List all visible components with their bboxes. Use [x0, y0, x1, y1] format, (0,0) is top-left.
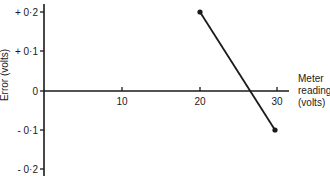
x-tick-label: 30 [271, 96, 283, 107]
x-axis-label-line: reading [298, 85, 330, 96]
data-point [272, 127, 277, 132]
y-tick-label: + 0·1 [15, 46, 39, 57]
x-axis-label-line: Meter [298, 73, 324, 84]
x-tick-labels: 10 20 30 [116, 96, 283, 107]
x-tick-label: 20 [194, 96, 206, 107]
x-tick-label: 10 [116, 96, 128, 107]
y-tick-labels: + 0·2 + 0·1 0 - 0·1 - 0·2 [15, 7, 39, 175]
data-line [200, 12, 275, 130]
x-axis-label-line: (volts) [298, 97, 325, 108]
y-tick-label: - 0·2 [17, 164, 38, 175]
error-vs-meter-reading-chart: + 0·2 + 0·1 0 - 0·1 - 0·2 Error (volts) … [0, 0, 330, 183]
data-point [197, 9, 202, 14]
y-tick-label: - 0·1 [17, 125, 38, 136]
y-axis-label: Error (volts) [0, 49, 10, 101]
series-error [197, 9, 277, 132]
x-axis-label: Meter reading (volts) [298, 73, 330, 108]
y-tick-label: 0 [32, 86, 38, 97]
y-tick-label: + 0·2 [15, 7, 39, 18]
